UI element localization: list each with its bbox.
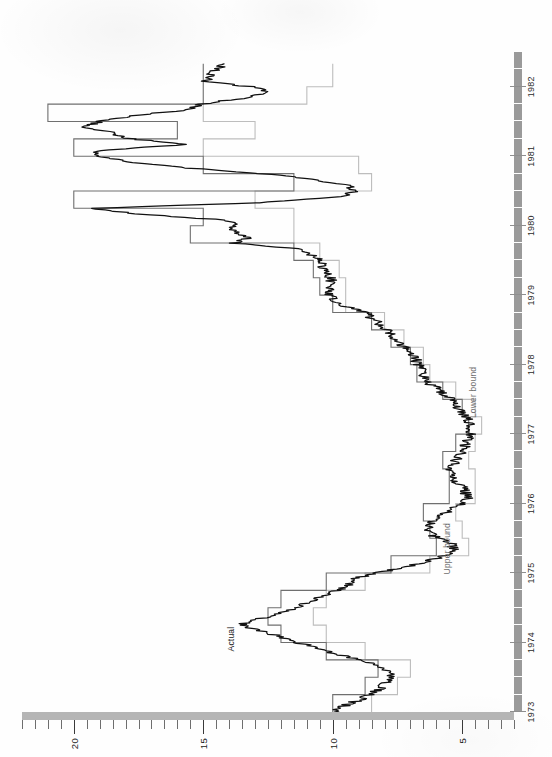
- x-tick-label: 1980: [526, 215, 536, 236]
- y-tick-minor: [229, 720, 230, 729]
- y-tick-major: [333, 720, 334, 734]
- y-tick-minor: [190, 720, 191, 729]
- y-tick-minor: [410, 720, 411, 729]
- y-tick-minor: [385, 720, 386, 729]
- y-tick-minor: [423, 720, 424, 729]
- upper-bound-line: [48, 64, 469, 712]
- x-tick-label: 1974: [526, 632, 536, 653]
- x-tick-minor: [514, 520, 522, 521]
- y-tick-label: 15: [198, 738, 209, 749]
- x-tick-minor: [514, 450, 522, 451]
- y-tick-minor: [126, 720, 127, 729]
- x-tick-major: [510, 364, 526, 365]
- x-tick-minor: [514, 381, 522, 382]
- y-tick-minor: [281, 720, 282, 729]
- plot-area: Actual Upper bound Lower bound: [22, 52, 514, 712]
- y-tick-minor: [255, 720, 256, 729]
- y-tick-label: 10: [327, 738, 338, 749]
- y-tick-minor: [436, 720, 437, 729]
- x-tick-minor: [514, 537, 522, 538]
- y-tick-minor: [372, 720, 373, 729]
- x-tick-minor: [514, 468, 522, 469]
- x-tick-minor: [514, 190, 522, 191]
- annotation-upper-bound: Upper bound: [442, 523, 452, 574]
- y-tick-minor: [139, 720, 140, 729]
- y-tick-minor: [87, 720, 88, 729]
- x-tick-minor: [514, 277, 522, 278]
- x-tick-major: [510, 503, 526, 504]
- x-tick-minor: [514, 676, 522, 677]
- x-tick-minor: [514, 555, 522, 556]
- x-tick-label: 1981: [526, 146, 536, 167]
- y-tick-minor: [164, 720, 165, 729]
- x-tick-label: 1979: [526, 285, 536, 306]
- y-tick-minor: [514, 720, 515, 729]
- x-tick-minor: [514, 68, 522, 69]
- x-tick-minor: [514, 346, 522, 347]
- x-tick-minor: [514, 242, 522, 243]
- x-tick-label: 1978: [526, 354, 536, 375]
- x-tick-minor: [514, 589, 522, 590]
- y-tick-minor: [346, 720, 347, 729]
- x-tick-minor: [514, 259, 522, 260]
- x-tick-minor: [514, 607, 522, 608]
- y-tick-minor: [268, 720, 269, 729]
- series-lines: [22, 52, 514, 712]
- x-tick-major: [510, 225, 526, 226]
- x-tick-major: [510, 642, 526, 643]
- y-tick-minor: [501, 720, 502, 729]
- x-tick-label: 1975: [526, 563, 536, 584]
- y-tick-minor: [216, 720, 217, 729]
- y-tick-minor: [113, 720, 114, 729]
- rotated-figure-canvas: Actual Upper bound Lower bound 197319741…: [0, 0, 552, 757]
- y-tick-minor: [48, 720, 49, 729]
- x-axis-year: [514, 52, 522, 712]
- y-tick-major: [74, 720, 75, 734]
- y-tick-minor: [307, 720, 308, 729]
- x-tick-minor: [514, 51, 522, 52]
- figure-page: Actual Upper bound Lower bound 197319741…: [0, 0, 552, 757]
- y-tick-label: 20: [68, 738, 79, 749]
- y-tick-minor: [151, 720, 152, 729]
- x-tick-minor: [514, 694, 522, 695]
- x-tick-minor: [514, 103, 522, 104]
- y-tick-minor: [100, 720, 101, 729]
- x-tick-minor: [514, 312, 522, 313]
- y-tick-minor: [242, 720, 243, 729]
- x-tick-label: 1977: [526, 424, 536, 445]
- y-tick-minor: [488, 720, 489, 729]
- y-tick-minor: [359, 720, 360, 729]
- y-tick-minor: [177, 720, 178, 729]
- x-tick-minor: [514, 138, 522, 139]
- y-tick-minor: [320, 720, 321, 729]
- actual-line: [82, 64, 476, 712]
- x-tick-minor: [514, 398, 522, 399]
- x-tick-minor: [514, 659, 522, 660]
- y-tick-major: [462, 720, 463, 734]
- y-tick-minor: [397, 720, 398, 729]
- y-tick-minor: [449, 720, 450, 729]
- y-tick-minor: [61, 720, 62, 729]
- x-tick-minor: [514, 207, 522, 208]
- x-tick-minor: [514, 120, 522, 121]
- x-tick-minor: [514, 329, 522, 330]
- y-tick-major: [203, 720, 204, 734]
- y-tick-label: 5: [457, 738, 468, 744]
- y-tick-minor: [294, 720, 295, 729]
- x-tick-label: 1976: [526, 493, 536, 514]
- annotation-lower-bound: Lower bound: [468, 367, 478, 418]
- y-tick-minor: [22, 720, 23, 729]
- x-tick-major: [510, 294, 526, 295]
- x-tick-minor: [514, 624, 522, 625]
- annotation-actual: Actual: [226, 627, 236, 652]
- x-tick-minor: [514, 173, 522, 174]
- x-tick-major: [510, 86, 526, 87]
- y-axis-percent: [22, 712, 514, 720]
- x-tick-minor: [514, 485, 522, 486]
- y-tick-minor: [475, 720, 476, 729]
- x-tick-minor: [514, 416, 522, 417]
- x-tick-major: [510, 433, 526, 434]
- y-tick-minor: [35, 720, 36, 729]
- x-tick-major: [510, 572, 526, 573]
- x-tick-label: 1973: [526, 702, 536, 723]
